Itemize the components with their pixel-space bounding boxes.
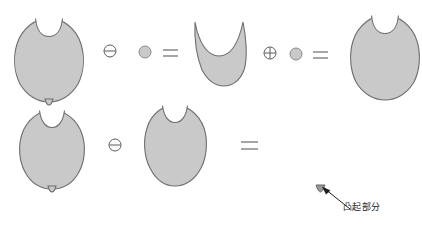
morphological-opening-figure: 凸起部分: [0, 0, 422, 227]
shape-eroded-blob: [195, 22, 246, 86]
dilation-operator-row1: [264, 47, 276, 59]
shape-opened-blob-row2: [145, 103, 207, 186]
structuring-element-disk-row1-b: [290, 48, 302, 60]
equals-operator-row1-b: [313, 52, 328, 58]
structuring-element-disk-row1-a: [139, 46, 151, 58]
shape-original-blob-with-bump-row2: [20, 108, 85, 192]
shape-opened-blob-row1: [351, 13, 420, 100]
equals-operator-row1-a: [163, 50, 178, 56]
difference-operator-row2: [109, 139, 121, 151]
figure-canvas: [0, 0, 422, 227]
equals-operator-row2: [241, 142, 258, 149]
protrusion-bump-row2: [48, 186, 56, 192]
shape-original-blob-with-bump-row1: [15, 16, 84, 105]
erosion-operator-row1: [104, 45, 116, 57]
protrusion-callout-label: 凸起部分: [343, 203, 381, 212]
protrusion-bump-row1: [45, 99, 53, 105]
